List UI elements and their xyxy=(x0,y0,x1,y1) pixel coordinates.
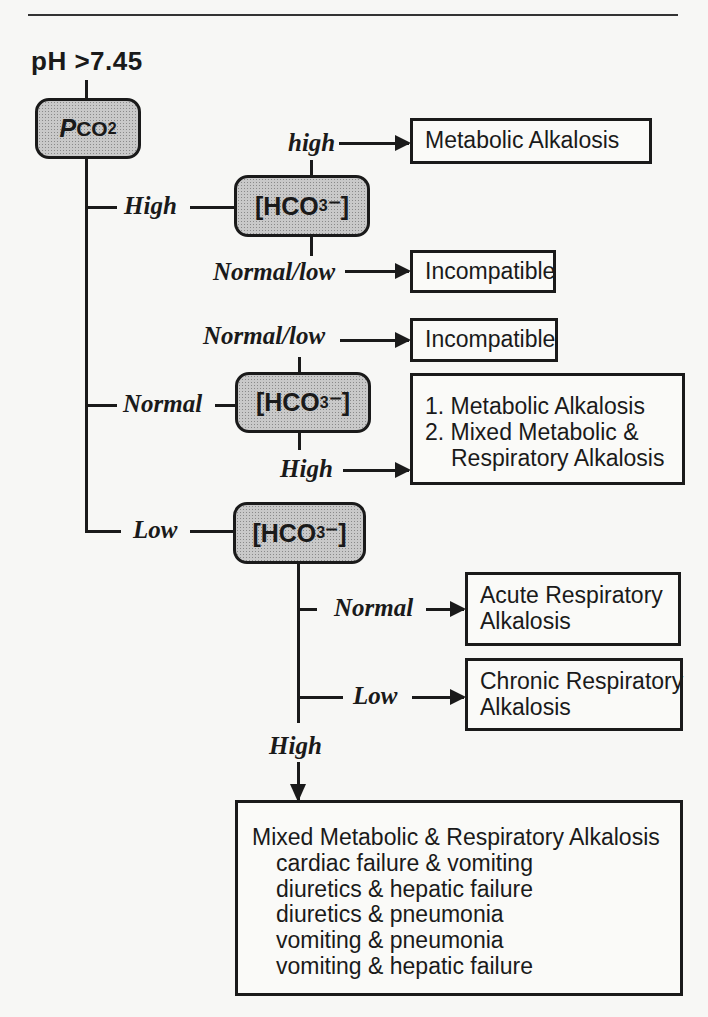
result-metabolic-alkalosis: Metabolic Alkalosis xyxy=(410,118,652,164)
arrow-to-metabolic-alkalosis xyxy=(339,142,409,145)
result-mixed-metabolic-respiratory-alkalosis: Mixed Metabolic & Respiratory Alkalosis … xyxy=(235,800,683,996)
normal-down-stem xyxy=(298,432,301,450)
low-branch-connector xyxy=(190,530,235,533)
low-normal-label: Normal xyxy=(334,595,413,620)
high-branch-connector xyxy=(190,206,236,209)
low-low-tick xyxy=(297,696,343,699)
high-down-stem xyxy=(310,236,313,256)
diagram-title: pH >7.45 xyxy=(31,46,143,77)
low-branch-tick xyxy=(85,530,121,533)
normal-high-label: High xyxy=(280,456,333,481)
normal-branch-label: Normal xyxy=(123,391,202,416)
high-branch-tick xyxy=(85,206,117,209)
cause-item: cardiac failure & vomiting xyxy=(252,851,666,877)
result-incompatible-2: Incompatible xyxy=(410,318,558,362)
low-sub-trunk xyxy=(297,563,300,723)
cause-item: diuretics & pneumonia xyxy=(252,902,666,928)
arrow-to-acute-respiratory xyxy=(426,608,464,611)
normal-normallow-label: Normal/low xyxy=(203,323,325,348)
arrow-to-mixed-alkalosis xyxy=(297,762,300,800)
pco2-node: PCO2 xyxy=(35,98,141,159)
cause-item: vomiting & hepatic failure xyxy=(252,954,666,980)
ph-threshold: >7.45 xyxy=(74,46,142,76)
normal-branch-tick xyxy=(85,404,117,407)
low-low-label: Low xyxy=(353,683,397,708)
trunk-main xyxy=(85,158,88,532)
arrow-to-chronic-respiratory xyxy=(412,696,464,699)
cause-item: vomiting & pneumonia xyxy=(252,928,666,954)
result-incompatible-1: Incompatible xyxy=(410,250,556,293)
result-normal-high: 1. Metabolic Alkalosis 2. Mixed Metaboli… xyxy=(410,373,685,485)
low-normal-tick xyxy=(297,608,317,611)
result-acute-respiratory-alkalosis: Acute Respiratory Alkalosis xyxy=(465,572,681,646)
normal-branch-connector xyxy=(215,404,237,407)
top-rule xyxy=(28,14,678,16)
low-branch-label: Low xyxy=(133,517,177,542)
hco3-node-normal: [HCO3⁻] xyxy=(235,372,371,433)
high-high-label: high xyxy=(288,130,335,155)
result-chronic-respiratory-alkalosis: Chronic Respiratory Alkalosis xyxy=(465,658,683,731)
hco3-node-low: [HCO3⁻] xyxy=(233,502,366,564)
ph-label: pH xyxy=(31,46,67,76)
hco3-node-high: [HCO3⁻] xyxy=(234,175,370,237)
high-normallow-label: Normal/low xyxy=(213,259,335,284)
high-up-stem xyxy=(310,160,313,176)
low-high-label: High xyxy=(269,733,322,758)
cause-item: diuretics & hepatic failure xyxy=(252,877,666,903)
high-branch-label: High xyxy=(124,193,177,218)
arrow-to-normal-high-results xyxy=(343,469,409,472)
arrow-to-incompatible-2 xyxy=(340,339,409,342)
trunk-top xyxy=(85,80,88,100)
arrow-to-incompatible-1 xyxy=(345,270,409,273)
